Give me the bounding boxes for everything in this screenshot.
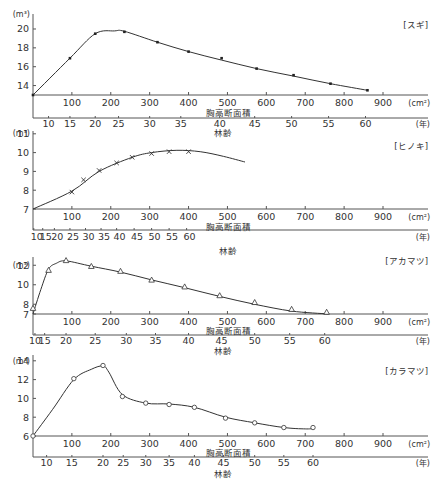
age-tick-label: 45 (218, 457, 230, 468)
age-tick-label: 50 (149, 231, 161, 242)
age-tick-label: 15 (40, 231, 52, 242)
data-curve (33, 150, 245, 209)
y-tick-label: 16 (17, 61, 29, 72)
age-tick-label: 50 (249, 457, 261, 468)
age-tick-label: 30 (120, 335, 132, 346)
data-point (292, 74, 295, 77)
data-point (255, 67, 258, 70)
x-tick-label: 300 (141, 438, 159, 449)
data-point (182, 284, 188, 289)
age-tick-label: 60 (184, 231, 196, 242)
x-tick-label: 800 (335, 211, 353, 222)
y-axis-unit: (m³) (13, 129, 30, 138)
age-tick-label: 55 (166, 231, 178, 242)
age-axis-unit: (年) (416, 119, 430, 129)
data-point (329, 82, 332, 85)
age-tick-label: 60 (359, 118, 371, 129)
y-tick-label: 12 (17, 374, 29, 385)
x-tick-label: 700 (296, 97, 314, 108)
x-tick-label: 400 (179, 211, 197, 222)
x-tick-label: 800 (335, 438, 353, 449)
x-tick-label: 100 (63, 316, 81, 327)
x-tick-label: 600 (257, 97, 275, 108)
data-point (223, 416, 227, 420)
age-tick-label: 45 (249, 118, 261, 129)
data-point (120, 394, 124, 398)
data-point (94, 32, 97, 35)
x-tick-label: 800 (335, 97, 353, 108)
x-tick-label: 900 (374, 97, 392, 108)
species-title: [カラマツ] (385, 366, 428, 376)
age-tick-label: 45 (216, 335, 228, 346)
chart-canvas: 14161820(m³)100200300400500600700800900(… (0, 0, 432, 488)
age-tick-label: 20 (51, 231, 63, 242)
data-point (118, 268, 124, 273)
y-tick-label: 18 (17, 42, 29, 53)
y-tick-label: 14 (17, 80, 29, 91)
data-curve (33, 261, 329, 314)
x-tick-label: 100 (63, 211, 81, 222)
chart-panel-2: 7891011(m³)100200300400500600700800900(c… (13, 128, 430, 256)
age-tick-label: 25 (67, 231, 79, 242)
x-tick-label: 400 (179, 316, 197, 327)
age-tick-label: 20 (89, 118, 101, 129)
data-point (69, 57, 72, 60)
x-tick-label: 200 (102, 211, 120, 222)
x-axis-label: 胸高断面積 (206, 222, 251, 232)
y-tick-label: 6 (23, 431, 29, 442)
age-tick-label: 50 (286, 118, 298, 129)
age-tick-label: 10 (43, 118, 55, 129)
x-axis-unit: (cm²) (408, 318, 430, 327)
x-tick-label: 400 (179, 97, 197, 108)
y-tick-label: 8 (23, 299, 29, 310)
age-tick-label: 30 (82, 231, 94, 242)
data-point (289, 306, 295, 311)
chart-panel-4: 68101214(m³)100200300400500600700800900(… (13, 355, 430, 479)
x-tick-label: 100 (63, 438, 81, 449)
x-tick-label: 600 (257, 438, 275, 449)
data-point (252, 421, 256, 425)
age-axis-unit: (年) (416, 232, 430, 242)
x-tick-label: 200 (102, 438, 120, 449)
age-tick-label: 60 (307, 457, 319, 468)
age-tick-label: 50 (249, 335, 261, 346)
x-axis-unit: (cm²) (408, 213, 430, 222)
age-axis-label: 林齢 (214, 128, 232, 138)
age-tick-label: 25 (113, 118, 125, 129)
age-tick-label: 20 (60, 335, 72, 346)
x-tick-label: 700 (296, 438, 314, 449)
x-tick-label: 800 (335, 316, 353, 327)
x-tick-label: 500 (218, 211, 236, 222)
x-axis-label: 胸高断面積 (206, 108, 251, 118)
y-tick-label: 9 (23, 166, 29, 177)
x-tick-label: 600 (257, 211, 275, 222)
x-tick-label: 900 (374, 438, 392, 449)
data-point (282, 425, 286, 429)
data-point (123, 31, 126, 34)
y-tick-label: 7 (23, 204, 29, 215)
x-tick-label: 700 (296, 211, 314, 222)
age-axis-unit: (年) (416, 458, 430, 468)
x-tick-label: 200 (102, 316, 120, 327)
y-axis-unit: (m³) (13, 357, 30, 366)
data-point (324, 309, 330, 314)
y-tick-label: 10 (17, 279, 29, 290)
data-point (252, 300, 258, 305)
y-tick-label: 10 (17, 393, 29, 404)
species-title: [スギ] (403, 20, 428, 30)
data-point (72, 376, 76, 380)
age-tick-label: 15 (39, 335, 51, 346)
x-axis-unit: (cm²) (408, 99, 430, 108)
age-axis-label: 林齢 (214, 469, 232, 479)
data-point (187, 50, 190, 53)
data-point (144, 401, 148, 405)
data-point (311, 425, 315, 429)
age-tick-label: 35 (98, 231, 110, 242)
data-point (220, 57, 223, 60)
age-tick-label: 55 (284, 335, 296, 346)
x-axis-unit: (cm²) (408, 440, 430, 449)
age-tick-label: 55 (323, 118, 335, 129)
data-point (81, 178, 85, 182)
species-title: [ヒノキ] (394, 141, 428, 151)
data-point (217, 293, 223, 298)
